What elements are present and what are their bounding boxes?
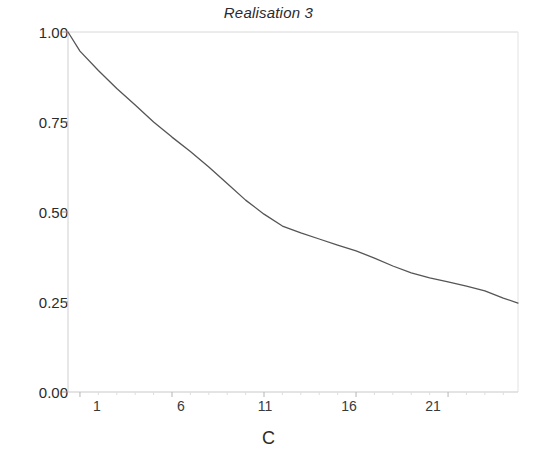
y-tick-marks	[62, 32, 68, 392]
data-series-line	[68, 32, 518, 303]
chart-figure: Realisation 3 1.00 0.75 0.50 0.25 0.00 1…	[0, 0, 537, 461]
x-tick-marks	[80, 392, 503, 397]
plot-area	[0, 0, 537, 461]
